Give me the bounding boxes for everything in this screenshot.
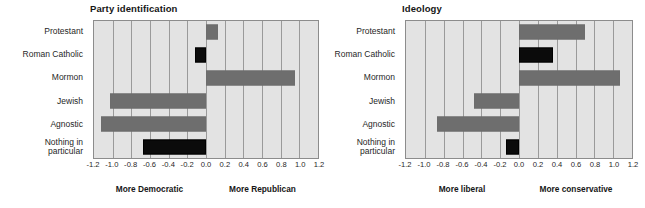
x-axis-tick-label: -0.8 (124, 160, 137, 169)
y-axis-label: Nothing inparticular (322, 136, 400, 159)
gridline (632, 21, 633, 158)
bar-series-ideology (406, 21, 632, 158)
x-axis-tick-label: -1.0 (105, 160, 118, 169)
bar (101, 116, 206, 131)
y-axis-label: Nothing inparticular (0, 136, 88, 159)
x-axis-tick-label: -0.4 (162, 160, 175, 169)
bar-row (94, 89, 318, 112)
x-axis-tick-label: 0.6 (571, 160, 582, 169)
x-axis-tick-label: 0.8 (276, 160, 287, 169)
y-axis-label: Mormon (0, 66, 88, 89)
x-axis-tick-label: 0.0 (514, 160, 525, 169)
x-axis-tick-label: -0.8 (436, 160, 449, 169)
bar-row (406, 89, 632, 112)
bar (437, 116, 519, 131)
chart-title-ideology: Ideology (402, 3, 442, 14)
chart-panel-ideology: Ideology ProtestantRoman CatholicMormonJ… (322, 0, 645, 208)
bar (519, 71, 620, 86)
y-axis-label: Protestant (0, 20, 88, 43)
y-axis-label: Agnostic (322, 113, 400, 136)
bar (110, 93, 206, 108)
axis-end-label-right-low: More liberal (439, 184, 486, 194)
bar (143, 139, 206, 154)
axis-end-labels-left: More Democratic More Republican (93, 184, 319, 198)
y-axis-category-labels-right: ProtestantRoman CatholicMormonJewishAgno… (322, 20, 400, 159)
axis-end-label-left-low: More Democratic (116, 184, 183, 194)
y-axis-label: Protestant (322, 20, 400, 43)
axis-end-labels-right: More liberal More conservative (405, 184, 633, 198)
axis-end-label-left-high: More Republican (229, 184, 296, 194)
x-axis-tick-label: 0.4 (238, 160, 249, 169)
bar (519, 25, 585, 40)
bar-row (406, 112, 632, 135)
x-axis-tick-labels-right: -1.2-1.0-0.8-0.6-0.4-0.20.00.20.40.60.81… (405, 160, 633, 172)
bar-row (406, 135, 632, 158)
bar-row (94, 67, 318, 90)
chart-title-party-identification: Party identification (90, 3, 178, 14)
two-panel-bar-chart-figure: Party identification ProtestantRoman Cat… (0, 0, 645, 208)
x-axis-tick-label: 0.0 (201, 160, 212, 169)
x-axis-tick-label: 0.6 (257, 160, 268, 169)
x-axis-tick-label: 0.8 (590, 160, 601, 169)
x-axis-tick-label: 0.2 (533, 160, 544, 169)
x-axis-tick-labels-left: -1.2-1.0-0.8-0.6-0.4-0.20.00.20.40.60.81… (93, 160, 319, 172)
bar (506, 139, 519, 154)
y-axis-label: Mormon (322, 66, 400, 89)
chart-panel-party-identification: Party identification ProtestantRoman Cat… (0, 0, 330, 208)
bar (519, 48, 553, 63)
plot-area-ideology (405, 20, 633, 159)
y-axis-category-labels-left: ProtestantRoman CatholicMormonJewishAgno… (0, 20, 88, 159)
bar-row (94, 112, 318, 135)
x-axis-tick-label: -0.2 (493, 160, 506, 169)
y-axis-label: Roman Catholic (0, 43, 88, 66)
y-axis-label: Roman Catholic (322, 43, 400, 66)
x-axis-tick-label: 0.2 (220, 160, 231, 169)
bar (474, 93, 519, 108)
x-axis-tick-label: 1.0 (295, 160, 306, 169)
x-axis-tick-label: -0.4 (474, 160, 487, 169)
bar-row (406, 67, 632, 90)
gridline (318, 21, 319, 158)
x-axis-tick-label: -1.0 (417, 160, 430, 169)
bar-row (406, 21, 632, 44)
x-axis-tick-label: -0.6 (455, 160, 468, 169)
bar (195, 48, 206, 63)
x-axis-tick-label: 1.2 (628, 160, 639, 169)
bar-row (94, 135, 318, 158)
x-axis-tick-label: 1.0 (609, 160, 620, 169)
x-axis-tick-label: -0.6 (143, 160, 156, 169)
x-axis-tick-label: -0.2 (181, 160, 194, 169)
y-axis-label: Agnostic (0, 113, 88, 136)
x-axis-tick-label: -1.2 (86, 160, 99, 169)
plot-area-party-identification (93, 20, 319, 159)
bar-row (94, 44, 318, 67)
y-axis-label: Jewish (322, 89, 400, 112)
axis-end-label-right-high: More conservative (540, 184, 613, 194)
y-axis-label: Jewish (0, 89, 88, 112)
bar-series-party-identification (94, 21, 318, 158)
bar-row (406, 44, 632, 67)
bar (206, 71, 295, 86)
x-axis-tick-label: -1.2 (398, 160, 411, 169)
x-axis-tick-label: 0.4 (552, 160, 563, 169)
bar-row (94, 21, 318, 44)
bar (206, 25, 218, 40)
